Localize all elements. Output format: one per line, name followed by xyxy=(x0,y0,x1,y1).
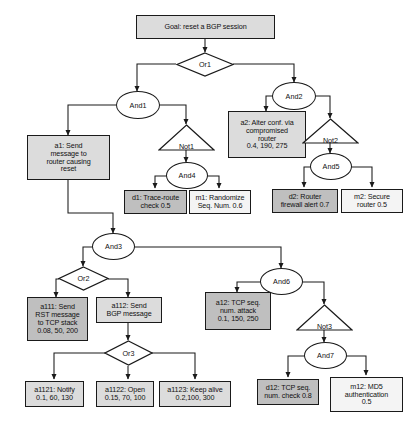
node-a2[interactable]: a2: Alter conf. via compromised router 0… xyxy=(228,111,306,158)
edge-and6-a12 xyxy=(237,282,261,292)
node-a1123[interactable]: a1123: Keep alive 0.2,100, 300 xyxy=(159,381,231,407)
node-a2-label: a2: Alter conf. via compromised router 0… xyxy=(231,119,303,150)
node-a112-label: a112: Send BGP message xyxy=(99,302,159,318)
edge-and1-not1 xyxy=(159,105,186,124)
gate-not3[interactable]: Not3 xyxy=(296,304,353,331)
node-d2[interactable]: d2: Router firewall alert 0.7 xyxy=(272,189,338,213)
node-a1[interactable]: a1: Send message to router causing reset xyxy=(27,135,110,180)
node-a112[interactable]: a112: Send BGP message xyxy=(96,297,162,323)
and6-ellipse-shape xyxy=(260,268,303,295)
node-d2-label: d2: Router firewall alert 0.7 xyxy=(275,193,335,209)
and3-ellipse-shape xyxy=(92,233,135,260)
node-goal-label: Goal: reset a BGP session xyxy=(139,23,272,31)
node-a1122-label: a1122: Open 0.15, 70, 100 xyxy=(99,386,151,402)
gate-or1[interactable]: Or1 xyxy=(176,52,234,77)
node-d12-label: d12: TCP seq. num. check 0.8 xyxy=(260,384,316,400)
gate-or3[interactable]: Or3 xyxy=(104,340,153,366)
and4-ellipse-shape xyxy=(166,162,208,189)
node-a111-label: a111: Send RST message to TCP stack 0.08… xyxy=(30,303,85,334)
gate-and1[interactable]: And1 xyxy=(116,91,160,119)
node-a1121-label: a1121: Notify 0.1, 60, 130 xyxy=(28,386,81,402)
edge-a1-and3 xyxy=(68,180,113,233)
node-m12[interactable]: m12: MD5 authentication 0.5 xyxy=(330,377,403,412)
edge-and3-and6 xyxy=(134,247,281,268)
edge-or1-and1 xyxy=(137,64,176,91)
node-d1-label: d1: Trace-route check 0.5 xyxy=(127,194,184,210)
gate-and2[interactable]: And2 xyxy=(272,82,316,110)
node-m1-label: m1: Randomize Seq. Num. 0.6 xyxy=(192,194,248,210)
gate-and4[interactable]: And4 xyxy=(166,162,208,189)
node-m2-label: m2: Secure router 0.5 xyxy=(344,193,400,209)
edge-and6-not3 xyxy=(302,282,324,304)
edge-or2-a112 xyxy=(108,279,128,297)
and1-ellipse-shape xyxy=(116,91,160,119)
node-a1122[interactable]: a1122: Open 0.15, 70, 100 xyxy=(96,381,154,407)
node-a111[interactable]: a111: Send RST message to TCP stack 0.08… xyxy=(27,297,88,341)
node-goal[interactable]: Goal: reset a BGP session xyxy=(136,15,275,39)
gate-not2[interactable]: Not2 xyxy=(302,118,359,144)
edge-and2-not2 xyxy=(315,96,330,118)
gate-not1[interactable]: Not1 xyxy=(158,124,215,151)
edge-and7-d12 xyxy=(288,356,305,377)
attack-tree-diagram: Goal: reset a BGP session Or1 And1 And2 … xyxy=(0,0,411,430)
node-m1[interactable]: m1: Randomize Seq. Num. 0.6 xyxy=(189,190,251,214)
and7-ellipse-shape xyxy=(304,342,347,369)
node-d1[interactable]: d1: Trace-route check 0.5 xyxy=(124,190,187,214)
node-m12-label: m12: MD5 authentication 0.5 xyxy=(333,383,400,406)
node-a1121[interactable]: a1121: Notify 0.1, 60, 130 xyxy=(25,381,84,407)
gate-and7[interactable]: And7 xyxy=(304,342,347,369)
gate-and6[interactable]: And6 xyxy=(260,268,303,295)
gate-or2[interactable]: Or2 xyxy=(58,266,109,291)
edge-and5-m2 xyxy=(351,167,372,187)
node-a1123-label: a1123: Keep alive 0.2,100, 300 xyxy=(162,386,228,402)
edge-and7-m12 xyxy=(345,356,366,375)
gate-and5[interactable]: And5 xyxy=(310,153,352,180)
and5-ellipse-shape xyxy=(310,153,352,180)
edge-and4-m1 xyxy=(207,176,219,188)
edge-or1-and2 xyxy=(233,64,294,82)
edge-or3-a1121 xyxy=(54,353,105,379)
node-a12-label: a12: TCP seq. num. attack 0.1, 150, 250 xyxy=(208,299,268,322)
node-a12[interactable]: a12: TCP seq. num. attack 0.1, 150, 250 xyxy=(205,292,271,330)
gate-and3[interactable]: And3 xyxy=(92,233,135,260)
node-a1-label: a1: Send message to router causing reset xyxy=(30,142,107,173)
node-d12[interactable]: d12: TCP seq. num. check 0.8 xyxy=(257,379,319,405)
node-m2[interactable]: m2: Secure router 0.5 xyxy=(341,189,403,213)
edge-and1-a1 xyxy=(68,105,116,135)
and2-ellipse-shape xyxy=(272,82,316,110)
edge-or3-a1123 xyxy=(152,353,195,379)
